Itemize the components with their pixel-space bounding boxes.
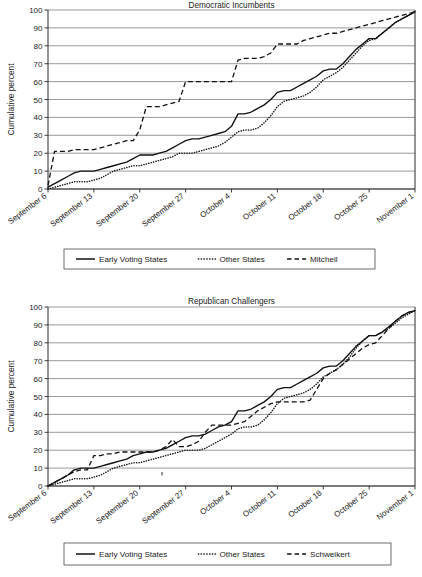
x-tick-label: September 13 [49, 488, 95, 526]
y-tick-label: 20 [34, 446, 43, 455]
x-tick-label: September 13 [49, 191, 95, 229]
y-axis-title: Cumulative percent [6, 360, 16, 433]
x-tick-label: September 6 [6, 488, 48, 523]
x-tick-label: September 20 [94, 191, 140, 229]
x-tick-label: September 6 [6, 191, 48, 226]
series-line [48, 12, 415, 186]
legend-label: Early Voting States [99, 550, 167, 559]
y-tick-label: 100 [29, 6, 43, 15]
series-line [48, 311, 415, 486]
y-tick-label: 50 [34, 96, 43, 105]
y-tick-label: 90 [34, 321, 43, 330]
y-tick-label: 40 [34, 113, 43, 122]
x-tick-label: September 27 [140, 488, 186, 526]
legend-label: Mitchell [310, 255, 338, 264]
y-tick-label: 40 [34, 410, 43, 419]
legend-label: Early Voting States [99, 255, 167, 264]
series-line [48, 12, 415, 189]
chart-title: Democratic Incumbents [188, 1, 274, 10]
chart-democratic-incumbents: Democratic Incumbents0102030405060708090… [0, 0, 422, 288]
legend-label: Other States [219, 255, 264, 264]
y-tick-label: 70 [34, 60, 43, 69]
x-tick-label: October 25 [332, 191, 369, 222]
y-tick-label: 50 [34, 393, 43, 402]
x-tick-label: October 11 [241, 488, 278, 519]
x-tick-label: October 4 [198, 488, 232, 517]
legend-label: Other States [219, 550, 264, 559]
x-tick-label: November 1 [375, 191, 416, 225]
chart-republican-challengers: Republican Challengers010203040506070809… [0, 288, 422, 577]
y-tick-label: 60 [34, 375, 43, 384]
x-tick-label: October 11 [241, 191, 278, 222]
series-line [48, 311, 415, 486]
x-tick-label: November 1 [375, 488, 416, 522]
x-tick-label: September 20 [94, 488, 140, 526]
y-tick-label: 80 [34, 42, 43, 51]
y-tick-label: 10 [34, 464, 43, 473]
y-tick-label: 60 [34, 78, 43, 87]
y-tick-label: 80 [34, 339, 43, 348]
y-tick-label: 90 [34, 24, 43, 33]
y-tick-label: 30 [34, 428, 43, 437]
series-line [48, 311, 415, 486]
y-tick-label: 70 [34, 357, 43, 366]
y-tick-label: 100 [29, 303, 43, 312]
x-tick-label: September 27 [140, 191, 186, 229]
chart-svg-democratic-incumbents: Democratic Incumbents0102030405060708090… [0, 0, 422, 288]
y-tick-label: 20 [34, 149, 43, 158]
y-tick-label: 30 [34, 131, 43, 140]
x-tick-label: October 4 [198, 191, 232, 220]
legend-label: Schweikert [310, 550, 350, 559]
x-tick-label: October 25 [332, 488, 369, 519]
scan-artifact-speck [161, 472, 163, 476]
chart-title: Republican Challengers [188, 297, 275, 306]
x-tick-label: October 18 [286, 191, 323, 222]
y-axis-title: Cumulative percent [6, 63, 16, 136]
x-tick-label: October 18 [286, 488, 323, 519]
chart-svg-republican-challengers: Republican Challengers010203040506070809… [0, 288, 422, 577]
y-tick-label: 10 [34, 167, 43, 176]
